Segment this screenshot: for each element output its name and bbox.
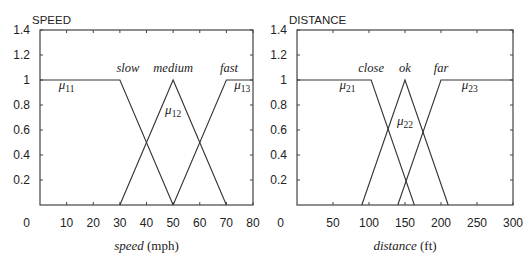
x-tick-label: 50 xyxy=(326,216,340,230)
x-tick-label: 300 xyxy=(503,216,523,230)
membership-ok xyxy=(362,80,448,205)
mu-label: μ22 xyxy=(396,113,413,130)
x-tick-label: 80 xyxy=(246,216,260,230)
y-tick-label: 0.4 xyxy=(270,148,287,162)
set-label-medium: medium xyxy=(153,61,193,75)
x-axis-label: speed (mph) xyxy=(114,238,179,253)
y-tick-label: 0.6 xyxy=(270,123,287,137)
y-tick-label: 1.2 xyxy=(270,48,287,62)
set-label-ok: ok xyxy=(399,61,411,75)
y-tick-label: 1.2 xyxy=(13,48,30,62)
speed-chart: SPEED0.20.40.60.811.21.40102030405060708… xyxy=(13,14,260,253)
x-tick-label: 200 xyxy=(431,216,451,230)
mu-label: μ12 xyxy=(164,102,181,119)
y-tick-label: 1 xyxy=(23,73,30,87)
x-tick-label: 0 xyxy=(277,216,284,230)
fuzzy-membership-charts: SPEED0.20.40.60.811.21.40102030405060708… xyxy=(0,0,530,253)
y-tick-label: 0.2 xyxy=(270,173,287,187)
set-label-fast: fast xyxy=(220,61,239,75)
membership-far xyxy=(398,80,513,205)
y-tick-label: 1.4 xyxy=(270,23,287,37)
y-tick-label: 0.4 xyxy=(13,148,30,162)
mu-label: μ13 xyxy=(233,77,250,94)
x-tick-label: 60 xyxy=(193,216,207,230)
x-tick-label: 100 xyxy=(359,216,379,230)
x-tick-label: 70 xyxy=(220,216,234,230)
mu-label: μ21 xyxy=(338,77,355,94)
mu-label: μ23 xyxy=(461,77,478,94)
y-tick-label: 1.4 xyxy=(13,23,30,37)
y-tick-label: 0.6 xyxy=(13,123,30,137)
distance-chart: DISTANCE0.20.40.60.811.21.40501001502002… xyxy=(270,14,523,253)
y-tick-label: 1 xyxy=(280,73,287,87)
membership-slow xyxy=(40,80,173,205)
mu-label: μ11 xyxy=(58,77,75,94)
x-tick-label: 150 xyxy=(395,216,415,230)
x-tick-label: 0 xyxy=(23,216,30,230)
membership-fast xyxy=(173,80,253,205)
membership-close xyxy=(297,80,414,205)
y-tick-label: 0.8 xyxy=(270,98,287,112)
x-tick-label: 40 xyxy=(140,216,154,230)
x-tick-label: 250 xyxy=(467,216,487,230)
y-tick-label: 0.8 xyxy=(13,98,30,112)
x-tick-label: 50 xyxy=(166,216,180,230)
set-label-slow: slow xyxy=(116,61,140,75)
x-tick-label: 10 xyxy=(60,216,74,230)
x-tick-label: 30 xyxy=(113,216,127,230)
y-tick-label: 0.2 xyxy=(13,173,30,187)
x-tick-label: 20 xyxy=(87,216,101,230)
x-axis-label: distance (ft) xyxy=(373,238,436,253)
set-label-far: far xyxy=(434,61,449,75)
chart-title: DISTANCE xyxy=(289,14,347,26)
chart-title: SPEED xyxy=(32,14,71,26)
set-label-close: close xyxy=(358,61,384,75)
plot-frame xyxy=(40,30,253,205)
membership-medium xyxy=(120,80,227,205)
